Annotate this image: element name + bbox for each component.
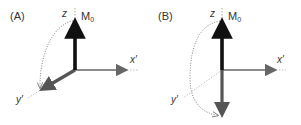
y-prime-axis-dashed: [183, 70, 222, 98]
m0-label: M0: [81, 10, 94, 23]
x-prime-label: x′: [129, 54, 138, 65]
panel-b: (B) z M0 x′ y′: [158, 8, 286, 115]
rotating-frame-diagram: (A) z M0 x′ y′ (B) z M0 x′ y′: [0, 0, 301, 125]
panel-b-label: (B): [158, 10, 173, 22]
y-prime-label: y′: [15, 94, 24, 105]
m0-label: M0: [228, 10, 241, 23]
z-axis-label: z: [61, 8, 67, 19]
rotation-path-dotted: [190, 21, 220, 115]
x-prime-label: x′: [276, 54, 285, 65]
rotated-vector-y-prime: [46, 70, 75, 87]
y-prime-axis-dashed: [28, 89, 42, 98]
z-axis-label: z: [209, 8, 215, 19]
panel-a: (A) z M0 x′ y′: [10, 8, 138, 105]
panel-a-label: (A): [10, 10, 25, 22]
y-prime-label: y′: [170, 94, 179, 105]
rotation-path-dotted: [40, 21, 73, 86]
